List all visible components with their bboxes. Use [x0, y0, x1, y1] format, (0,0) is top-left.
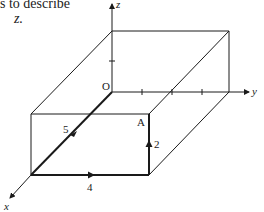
cuboid-back-edges: [112, 31, 229, 92]
origin-label: O: [102, 80, 110, 92]
vector-4-label: 4: [87, 181, 93, 193]
vector-2-label: 2: [154, 138, 160, 150]
vector-5: [31, 92, 112, 175]
z-axis-label: z: [115, 0, 121, 10]
y-axis-label: y: [251, 85, 257, 97]
cuboid-depth-edges: [31, 31, 229, 175]
z-axis: [109, 4, 115, 92]
x-axis: [10, 175, 31, 198]
point-a-label: A: [137, 116, 145, 128]
x-axis-label: x: [3, 200, 9, 212]
cuboid-diagram: O A 5 4 2 y x z: [0, 0, 264, 212]
cuboid-front-face: [31, 114, 149, 175]
vector-5-label: 5: [63, 123, 69, 135]
vector-4: [31, 172, 149, 179]
vector-2: [146, 114, 153, 175]
